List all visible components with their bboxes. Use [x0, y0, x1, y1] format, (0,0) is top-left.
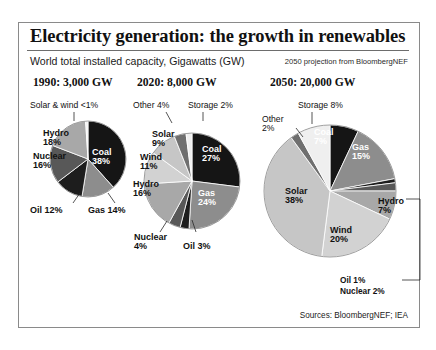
label-2020-coal-value: 27% [202, 154, 220, 163]
label-2050-wind-value: 20% [330, 235, 348, 244]
label-1990-gas: Gas 14% [88, 206, 126, 215]
label-1990-nuclear-value: 16% [33, 161, 51, 170]
infographic-root: Electricity generation: the growth in re… [0, 0, 436, 350]
label-2020-nuclear-value: 4% [134, 242, 147, 251]
panel-heading-2020: 2020: 8,000 GW [137, 76, 217, 89]
label-2050-solar-value: 38% [285, 196, 303, 205]
label-1990-hydro-value: 18% [43, 138, 61, 147]
chart-subtitle: World total installed capacity, Gigawatt… [30, 55, 245, 67]
label-2050-oil: Oil 1% [340, 276, 365, 285]
title-divider [27, 50, 409, 51]
projection-note: 2050 projection from BloombergNEF [285, 57, 408, 66]
label-2050-coal-value: 7% [314, 137, 327, 146]
label-2020-storage: Storage 2% [188, 101, 233, 110]
label-1990-oil: Oil 12% [30, 206, 63, 215]
label-2020-other: Other 4% [133, 101, 169, 110]
label-2050-nuclear: Nuclear 2% [340, 287, 385, 296]
label-2050-storage: Storage 8% [298, 101, 343, 110]
label-2020-wind-value: 11% [140, 162, 158, 171]
label-2020-solar-value: 9% [152, 139, 165, 148]
label-2020-gas-value: 24% [198, 198, 216, 207]
panel-heading-2050: 2050: 20,000 GW [270, 76, 355, 89]
sources-note: Sources: BloombergNEF; IEA [300, 311, 408, 320]
label-2050-gas-value: 15% [352, 152, 370, 161]
page-title: Electricity generation: the growth in re… [30, 26, 408, 47]
label-1990-solarwind: Solar & wind <1% [30, 101, 98, 110]
label-2050-other-value: 2% [262, 124, 274, 133]
panel-heading-1990: 1990: 3,000 GW [33, 76, 113, 89]
label-2020-hydro-value: 16% [133, 189, 151, 198]
label-1990-coal-value: 38% [92, 157, 110, 166]
label-2050-hydro-value: 7% [378, 206, 391, 215]
label-2020-oil: Oil 3% [183, 242, 211, 251]
